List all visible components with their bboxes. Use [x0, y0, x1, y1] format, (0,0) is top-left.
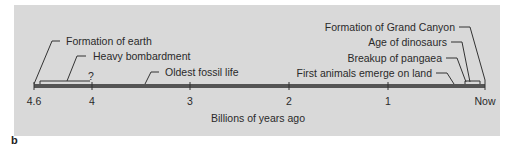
event-first-animals-on-land: First animals emerge on land — [297, 67, 432, 79]
tick-label-4: 4 — [89, 95, 95, 107]
event-formation-of-earth: Formation of earth — [66, 35, 152, 47]
event-breakup-of-pangaea: Breakup of pangaea — [347, 52, 442, 64]
axis-label: Billions of years ago — [211, 112, 305, 124]
uncertain-marker: ? — [88, 70, 94, 82]
tick-label-4-6: 4.6 — [27, 95, 42, 107]
tick-label-2: 2 — [286, 95, 292, 107]
tick-label-now: Now — [474, 95, 495, 107]
event-oldest-fossil-life: Oldest fossil life — [165, 66, 239, 78]
panel-letter: b — [11, 135, 18, 146]
timeline-bar — [34, 84, 485, 88]
event-heavy-bombardment: Heavy bombardment — [93, 50, 190, 62]
tick-label-3: 3 — [187, 95, 193, 107]
event-age-of-dinosaurs: Age of dinosaurs — [368, 36, 447, 48]
tick-label-1: 1 — [385, 95, 391, 107]
event-formation-of-grand-canyon: Formation of Grand Canyon — [325, 21, 455, 33]
